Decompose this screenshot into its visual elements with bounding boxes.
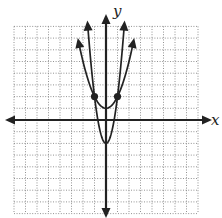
curve-arrow-icon: [84, 21, 93, 31]
y-axis-top-arrow-icon: [102, 14, 111, 24]
y-axis-label: y: [112, 2, 122, 20]
y-axis-bottom-arrow-icon: [102, 208, 111, 218]
coordinate-plane: x y: [0, 0, 222, 218]
curve-arrow-icon: [119, 21, 128, 31]
x-axis-left-arrow-icon: [5, 116, 15, 125]
x-axis-label: x: [211, 111, 220, 129]
intersection-point: [114, 93, 121, 100]
intersection-point: [91, 93, 98, 100]
